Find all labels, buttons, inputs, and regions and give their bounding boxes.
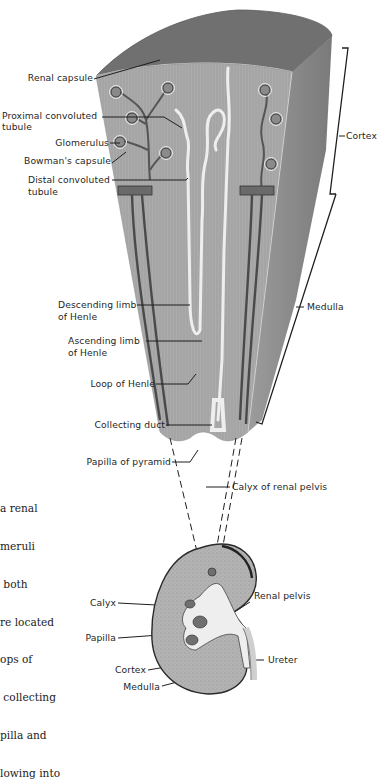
label-bowmans-capsule: Bowman's capsule	[24, 155, 111, 166]
label-descending-limb-2: of Henle	[58, 311, 97, 322]
label-proximal-convoluted-tubule-2: tubule	[2, 121, 32, 132]
label-loop-of-henle: Loop of Henle	[90, 378, 155, 389]
caption-line: meruli	[0, 540, 60, 553]
label-ascending-limb-1: Ascending limb	[68, 335, 140, 346]
caption-line: lowing into	[0, 767, 60, 780]
label-descending-limb-1: Descending limb	[58, 299, 136, 310]
caption-line: re located	[0, 616, 60, 629]
label-proximal-convoluted-tubule-1: Proximal convoluted	[2, 110, 97, 121]
caption-line: a renal	[0, 502, 60, 515]
figure-caption: a renal meruli both re located ops of co…	[0, 477, 60, 783]
label-distal-convoluted-tubule-1: Distal convoluted	[28, 174, 110, 185]
label-medulla: Medulla	[123, 681, 160, 692]
label-ureter: Ureter	[268, 654, 298, 665]
caption-line: pilla and	[0, 729, 60, 742]
label-glomerulus: Glomerulus	[55, 137, 109, 148]
label-calyx-of-renal-pelvis: Calyx of renal pelvis	[232, 481, 327, 492]
label-cortex: Cortex	[115, 664, 146, 675]
caption-line: ops of	[0, 653, 60, 666]
label-renal-pelvis: Renal pelvis	[254, 590, 311, 601]
label-renal-capsule: Renal capsule	[28, 72, 93, 83]
label-papilla: Papilla	[85, 632, 116, 643]
cortex-bracket	[330, 48, 348, 194]
caption-line: both	[0, 578, 60, 591]
kidney-section	[152, 544, 256, 694]
label-medulla-region: Medulla	[307, 301, 344, 312]
label-cortex-region: Cortex	[346, 130, 377, 141]
caption-line: collecting	[0, 691, 60, 704]
label-papilla-of-pyramid: Papilla of pyramid	[87, 456, 171, 467]
label-collecting-duct: Collecting duct	[95, 419, 165, 430]
label-ascending-limb-2: of Henle	[68, 347, 107, 358]
label-distal-convoluted-tubule-2: tubule	[28, 186, 58, 197]
label-calyx: Calyx	[90, 597, 116, 608]
